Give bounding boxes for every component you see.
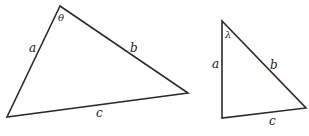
side-label-b-1: b xyxy=(130,41,138,55)
side-label-c-2: c xyxy=(269,114,276,128)
triangle-1: θ a b c xyxy=(7,6,188,120)
angle-label-lambda: λ xyxy=(224,29,231,40)
side-label-a-1: a xyxy=(29,41,36,55)
side-label-b-2: b xyxy=(270,58,278,72)
diagram-canvas: θ a b c λ a b c xyxy=(0,0,309,136)
triangle-2-outline xyxy=(222,21,306,118)
angle-label-theta: θ xyxy=(58,12,64,23)
side-label-a-2: a xyxy=(212,57,219,71)
triangle-2: λ a b c xyxy=(212,21,306,128)
side-label-c-1: c xyxy=(96,106,103,120)
triangle-1-outline xyxy=(7,6,188,117)
